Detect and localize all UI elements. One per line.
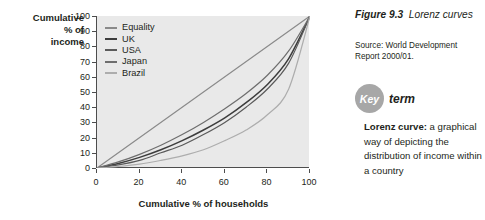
figure-number: Figure 9.3 [355,9,403,20]
x-tick-mark-80 [266,169,267,173]
legend-label-brazil: Brazil [122,68,145,79]
x-tick-mark-0 [96,169,97,173]
x-tick-mark-40 [181,169,182,173]
x-axis-title: Cumulative % of households [96,198,311,209]
legend-item-equality[interactable]: Equality [105,22,189,33]
x-tick-mark-20 [139,169,140,173]
legend-swatch-equality [105,27,117,29]
figure-source: Source: World Development Report 2000/01… [355,40,483,62]
key-term-name: Lorenz curve: [364,121,427,132]
x-tick-label-100: 100 [296,178,322,187]
y-tick-label-100: 100 [66,12,90,21]
figure-sidebar: Figure 9.3 Lorenz curves Source: World D… [355,0,485,220]
x-tick-mark-60 [224,169,225,173]
y-tick-label-0: 0 [66,164,90,173]
key-term-definition-block: Lorenz curve: a graphical way of depicti… [364,120,485,178]
legend-item-uk[interactable]: UK [105,33,189,44]
legend-item-brazil[interactable]: Brazil [105,68,189,79]
y-tick-label-80: 80 [66,42,90,51]
legend-swatch-usa [105,49,117,51]
y-tick-label-60: 60 [66,73,90,82]
legend-label-japan: Japan [122,56,147,67]
figure-title: Lorenz curves [409,9,473,20]
y-tick-label-70: 70 [66,58,90,67]
legend-item-usa[interactable]: USA [105,45,189,56]
legend-label-uk: UK [122,34,135,45]
figure-page: Cumulative % of income 100 90 80 70 60 5… [0,0,485,220]
x-tick-label-0: 0 [83,178,109,187]
y-tick-label-30: 30 [66,118,90,127]
key-term-word: term [389,92,415,106]
x-tick-label-20: 20 [126,178,152,187]
legend-swatch-uk [105,38,117,40]
y-tick-label-10: 10 [66,149,90,158]
key-badge: Key [355,84,384,113]
x-tick-label-40: 40 [168,178,194,187]
y-tick-label-40: 40 [66,103,90,112]
legend-label-equality: Equality [122,22,155,33]
key-term-header: Key term [355,84,415,113]
legend-item-japan[interactable]: Japan [105,56,189,67]
lorenz-curve-figure: Cumulative % of income 100 90 80 70 60 5… [0,0,325,220]
chart-legend: Equality UK USA Japan Brazil [105,22,189,79]
figure-caption: Figure 9.3 Lorenz curves [355,8,483,22]
y-tick-label-20: 20 [66,134,90,143]
x-tick-mark-100 [309,169,310,173]
legend-label-usa: USA [122,45,141,56]
y-tick-label-90: 90 [66,27,90,36]
x-tick-label-80: 80 [253,178,279,187]
legend-swatch-japan [105,61,117,63]
legend-swatch-brazil [105,72,117,74]
y-tick-label-50: 50 [66,88,90,97]
x-tick-label-60: 60 [211,178,237,187]
